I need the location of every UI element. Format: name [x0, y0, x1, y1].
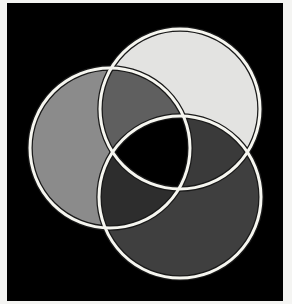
venn-diagram [0, 0, 292, 304]
